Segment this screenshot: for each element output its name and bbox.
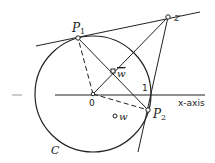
point-z: [166, 15, 170, 19]
label-p1: P1: [71, 21, 85, 36]
label-z: z: [173, 11, 180, 24]
label-x-axis: x-axis: [178, 98, 205, 108]
label-origin: 0: [89, 98, 95, 108]
label-wbar: w: [117, 68, 126, 79]
point-w: [113, 114, 117, 118]
point-p2: [146, 108, 150, 112]
label-w: w: [119, 111, 128, 122]
label-p2: P2: [152, 107, 166, 122]
line-origin-z: [93, 17, 168, 94]
label-circle-c: C: [51, 144, 60, 157]
point-origin: [91, 92, 95, 96]
label-one: 1: [142, 83, 148, 93]
point-wbar: [111, 69, 115, 73]
diagram-canvas: P1 P2 z w w 0 1 C x-axis: [0, 0, 215, 163]
point-p1: [76, 36, 80, 40]
